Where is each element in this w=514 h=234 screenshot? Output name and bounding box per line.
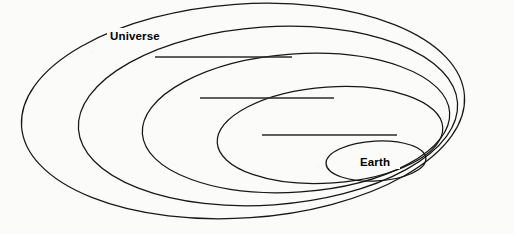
ellipse-level-3	[138, 43, 455, 202]
diagram-canvas: Universe Earth	[0, 0, 514, 234]
nested-ellipse-diagram: Universe Earth	[0, 0, 514, 234]
label-universe: Universe	[110, 30, 160, 42]
ellipse-level-2	[72, 14, 463, 218]
ellipse-level-1-universe	[14, 0, 472, 233]
label-earth: Earth	[360, 156, 390, 168]
